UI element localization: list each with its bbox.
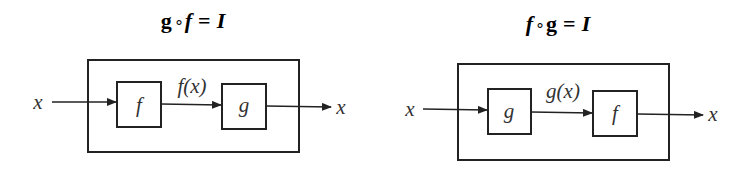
- output-label-left: x: [335, 95, 346, 119]
- intermediate-label-right: g(x): [546, 79, 580, 103]
- block-f-label-right: f: [612, 101, 621, 125]
- output-arrow-left: [266, 106, 331, 107]
- input-label-left: x: [32, 90, 43, 114]
- diagram-right: f∘g=I x g g(x) f x: [404, 11, 718, 160]
- block-f-label-left: f: [136, 93, 145, 117]
- input-label-right: x: [404, 97, 415, 121]
- middle-arrow-right: [531, 112, 592, 113]
- block-g-label-left: g: [239, 93, 250, 117]
- output-arrow-right: [637, 114, 703, 115]
- block-g-label-right: g: [504, 99, 515, 123]
- intermediate-label-left: f(x): [177, 74, 206, 98]
- title-left: g∘f=I: [161, 8, 227, 33]
- diagram-left: g∘f=I x f f(x) g x: [32, 8, 346, 152]
- input-arrow-right: [423, 109, 487, 110]
- output-label-right: x: [707, 102, 718, 126]
- middle-arrow-left: [161, 104, 221, 105]
- title-right: f∘g=I: [526, 11, 592, 36]
